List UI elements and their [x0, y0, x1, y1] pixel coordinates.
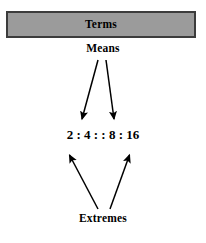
arrow-extremes-to-fourth-term: [110, 155, 130, 209]
arrow-means-to-third-term: [106, 60, 114, 119]
arrow-extremes-to-first-term: [70, 155, 99, 209]
arrow-means-to-second-term: [82, 60, 98, 119]
terms-header-box: Terms: [6, 11, 196, 38]
extremes-label: Extremes: [0, 212, 206, 225]
proportion-terms-diagram: Terms Means 2 : 4 : : 8 : 16 Extremes: [0, 0, 206, 243]
means-label: Means: [0, 42, 206, 55]
terms-header-label: Terms: [85, 19, 117, 31]
proportion-expression: 2 : 4 : : 8 : 16: [0, 128, 206, 143]
